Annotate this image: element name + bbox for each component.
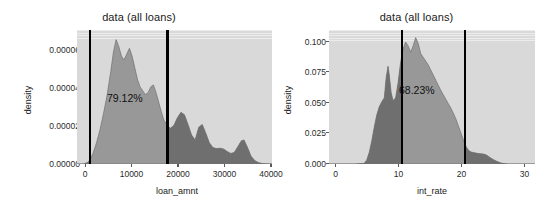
- y-axis-title-left: density: [23, 86, 33, 115]
- y-tick-label: 0.00004: [36, 83, 80, 93]
- x-tick-mark: [524, 164, 525, 167]
- x-tick-label: 30000: [213, 169, 237, 179]
- threshold-line: [464, 30, 466, 164]
- chart-panel-loan-amount: data (all loans) density 0.00006 0.00004…: [0, 0, 278, 208]
- x-tick-label: 10000: [120, 169, 144, 179]
- x-tick-mark: [270, 164, 271, 167]
- x-tick-mark: [177, 164, 178, 167]
- x-tick-mark: [398, 164, 399, 167]
- y-tick-label: 0.025: [292, 128, 326, 138]
- x-tick-label: 20: [457, 169, 466, 179]
- x-tick-label: 0: [333, 169, 338, 179]
- density-curve-right: [329, 30, 535, 164]
- x-tick-mark: [85, 164, 86, 167]
- percentage-annotation-left: 79.12%: [107, 92, 143, 104]
- x-tick-mark: [335, 164, 336, 167]
- x-tick-label: 30: [520, 169, 529, 179]
- y-tick-label: 0.050: [292, 98, 326, 108]
- x-tick-label: 20000: [166, 169, 190, 179]
- y-tick-label: 0.075: [292, 67, 326, 77]
- x-tick-mark: [461, 164, 462, 167]
- threshold-line: [89, 30, 91, 164]
- percentage-annotation-right: 68.23%: [399, 84, 435, 96]
- threshold-line: [166, 30, 168, 164]
- chart-title-left: data (all loans): [0, 11, 278, 23]
- x-tick-mark: [131, 164, 132, 167]
- x-tick-mark: [224, 164, 225, 167]
- x-axis-title-right: int_rate: [417, 186, 447, 196]
- x-axis-title-left: loan_amnt: [156, 186, 198, 196]
- x-tick-label: 10: [394, 169, 403, 179]
- figure-root: data (all loans) density 0.00006 0.00004…: [0, 0, 555, 208]
- y-tick-label: 0.00000: [36, 159, 80, 169]
- y-tick-label: 0.00002: [36, 121, 80, 131]
- chart-panel-int-rate: data (all loans) density 0.100 0.075 0.0…: [278, 0, 555, 208]
- y-tick-label: 0.100: [292, 37, 326, 47]
- y-tick-label: 0.000: [292, 159, 326, 169]
- chart-title-right: data (all loans): [278, 11, 555, 23]
- x-tick-label: 0: [83, 169, 88, 179]
- plot-area-right: [329, 30, 535, 164]
- y-tick-label: 0.00006: [36, 45, 80, 55]
- threshold-line: [401, 30, 403, 164]
